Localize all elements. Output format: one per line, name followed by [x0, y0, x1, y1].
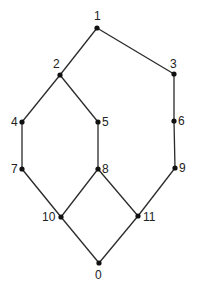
edge-8-11	[98, 169, 138, 216]
lattice-diagram: 12345678910110	[0, 0, 197, 285]
node-9	[172, 165, 177, 170]
node-label-5: 5	[102, 115, 109, 129]
edge-6-9	[174, 121, 175, 168]
node-4	[19, 119, 24, 124]
node-2	[57, 72, 62, 77]
node-label-2: 2	[53, 57, 60, 71]
node-0	[96, 260, 101, 265]
node-7	[19, 166, 24, 171]
node-label-0: 0	[95, 268, 102, 282]
node-label-1: 1	[94, 9, 101, 23]
edge-9-11	[138, 168, 175, 216]
edge-11-0	[99, 216, 138, 263]
node-8	[95, 166, 100, 171]
node-1	[94, 25, 99, 30]
node-label-6: 6	[178, 114, 185, 128]
edge-1-2	[60, 28, 97, 75]
node-label-8: 8	[102, 162, 109, 176]
edge-2-4	[22, 75, 60, 122]
edges-group	[22, 28, 175, 263]
node-label-3: 3	[170, 57, 177, 71]
node-3	[171, 71, 176, 76]
node-label-4: 4	[11, 115, 18, 129]
node-label-10: 10	[42, 210, 56, 224]
edge-2-5	[60, 75, 98, 122]
edge-1-3	[97, 28, 174, 74]
node-5	[95, 119, 100, 124]
node-label-11: 11	[143, 210, 156, 224]
edge-8-10	[61, 169, 98, 217]
node-6	[171, 118, 176, 123]
node-label-9: 9	[179, 161, 186, 175]
node-label-7: 7	[11, 162, 18, 176]
edge-10-0	[61, 217, 99, 263]
node-10	[58, 214, 63, 219]
node-11	[135, 213, 140, 218]
